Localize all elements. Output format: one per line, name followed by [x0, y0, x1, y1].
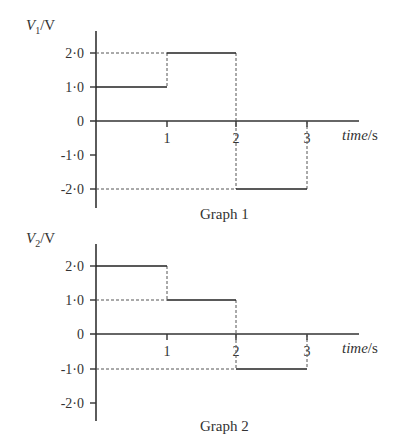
y-tick-label: -1·0 [61, 148, 84, 163]
y-tick-label: 1·0 [65, 80, 84, 95]
guide-lines [96, 266, 307, 369]
graph-caption: Graph 1 [200, 206, 249, 222]
y-tick-label: -2·0 [61, 182, 84, 197]
x-ticks [167, 334, 307, 340]
x-axis-title: time/s [342, 127, 378, 143]
figure: V1/V 2·0 1·0 0 -1·0 -2·0 1 2 3 time/s [0, 0, 410, 448]
y-tick-label: 2·0 [65, 46, 84, 61]
graph-1: V1/V 2·0 1·0 0 -1·0 -2·0 1 2 3 time/s [26, 17, 378, 222]
y-tick-label: -1·0 [61, 362, 84, 377]
graph-caption: Graph 2 [200, 418, 249, 434]
x-ticks [167, 121, 307, 127]
y-tick-label: 1·0 [65, 293, 84, 308]
y-axis-title: V2/V [26, 230, 55, 249]
y-tick-label: 0 [77, 114, 84, 129]
x-tick-label: 1 [164, 131, 171, 146]
x-tick-label: 1 [164, 344, 171, 359]
graph-2: V2/V 2·0 1·0 0 -1·0 -2·0 1 2 3 time/s [26, 230, 378, 434]
x-axis-title: time/s [342, 340, 378, 356]
y-tick-label: 0 [77, 327, 84, 342]
y-axis-title: V1/V [26, 17, 55, 36]
y-tick-label: 2·0 [65, 259, 84, 274]
signal-v2 [96, 266, 307, 369]
y-tick-label: -2·0 [61, 396, 84, 411]
